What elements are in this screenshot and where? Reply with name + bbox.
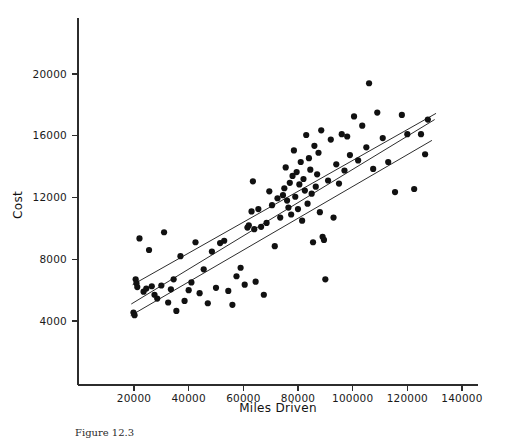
fit-line-middle — [131, 120, 434, 304]
data-point — [404, 131, 410, 137]
data-point — [229, 302, 235, 308]
data-point — [304, 201, 310, 207]
data-point — [314, 171, 320, 177]
data-point — [221, 238, 227, 244]
fit-line-lower — [131, 140, 432, 315]
data-point — [310, 239, 316, 245]
data-point — [380, 135, 386, 141]
data-point — [246, 222, 252, 228]
data-point — [284, 197, 290, 203]
y-axis-title: Cost — [11, 191, 25, 219]
data-point — [281, 185, 287, 191]
y-tick-label: 12000 — [33, 191, 67, 203]
data-point — [422, 151, 428, 157]
data-point — [213, 285, 219, 291]
data-point — [274, 195, 280, 201]
y-tick-label: 4000 — [39, 315, 67, 327]
data-point — [134, 284, 140, 290]
data-point — [280, 192, 286, 198]
x-tick-label: 100000 — [332, 392, 373, 404]
figure-container: 40008000120001600020000 2000040000600008… — [0, 0, 506, 438]
data-point — [299, 218, 305, 224]
data-point — [186, 287, 192, 293]
data-point — [330, 214, 336, 220]
data-point — [328, 137, 334, 143]
data-point — [309, 191, 315, 197]
data-point — [165, 299, 171, 305]
data-point — [288, 211, 294, 217]
data-points — [130, 80, 431, 318]
data-point — [322, 276, 328, 282]
data-point — [277, 214, 283, 220]
data-point — [355, 157, 361, 163]
data-point — [250, 178, 256, 184]
y-axis-ticks: 40008000120001600020000 — [33, 68, 78, 327]
data-point — [263, 220, 269, 226]
x-tick-label: 40000 — [171, 392, 205, 404]
data-point — [333, 161, 339, 167]
data-point — [385, 159, 391, 165]
data-point — [294, 169, 300, 175]
data-point — [347, 152, 353, 158]
data-point — [146, 247, 152, 253]
data-point — [269, 202, 275, 208]
data-point — [233, 273, 239, 279]
x-tick-label: 140000 — [441, 392, 482, 404]
data-point — [300, 176, 306, 182]
data-point — [318, 127, 324, 133]
data-point — [136, 235, 142, 241]
data-point — [261, 292, 267, 298]
regression-lines — [131, 113, 436, 315]
data-point — [251, 226, 257, 232]
data-point — [131, 312, 137, 318]
data-point — [321, 237, 327, 243]
data-point — [201, 266, 207, 272]
data-point — [173, 308, 179, 314]
y-tick-label: 16000 — [33, 129, 67, 141]
data-point — [296, 181, 302, 187]
data-point — [306, 155, 312, 161]
data-point — [370, 166, 376, 172]
x-tick-label: 120000 — [387, 392, 428, 404]
data-point — [291, 147, 297, 153]
data-point — [315, 150, 321, 156]
data-point — [242, 282, 248, 288]
data-point — [154, 296, 160, 302]
data-point — [272, 243, 278, 249]
data-point — [411, 186, 417, 192]
x-axis-title: Miles Driven — [239, 401, 317, 415]
y-tick-label: 20000 — [33, 68, 67, 80]
data-point — [255, 206, 261, 212]
data-point — [351, 113, 357, 119]
data-point — [197, 290, 203, 296]
data-point — [399, 112, 405, 118]
data-point — [374, 109, 380, 115]
x-tick-label: 20000 — [117, 392, 151, 404]
data-point — [149, 283, 155, 289]
data-point — [298, 159, 304, 165]
data-point — [168, 286, 174, 292]
data-point — [192, 239, 198, 245]
data-point — [266, 188, 272, 194]
data-point — [292, 194, 298, 200]
data-point — [158, 282, 164, 288]
data-point — [209, 248, 215, 254]
data-point — [307, 167, 313, 173]
data-point — [325, 177, 331, 183]
data-point — [339, 131, 345, 137]
data-point — [171, 276, 177, 282]
data-point — [302, 187, 308, 193]
data-point — [341, 167, 347, 173]
data-point — [287, 180, 293, 186]
data-point — [317, 209, 323, 215]
data-point — [295, 206, 301, 212]
data-point — [205, 300, 211, 306]
data-point — [161, 229, 167, 235]
data-point — [225, 288, 231, 294]
data-point — [359, 123, 365, 129]
data-point — [181, 298, 187, 304]
data-point — [143, 285, 149, 291]
data-point — [285, 204, 291, 210]
data-point — [188, 279, 194, 285]
fit-line-upper — [133, 113, 436, 284]
